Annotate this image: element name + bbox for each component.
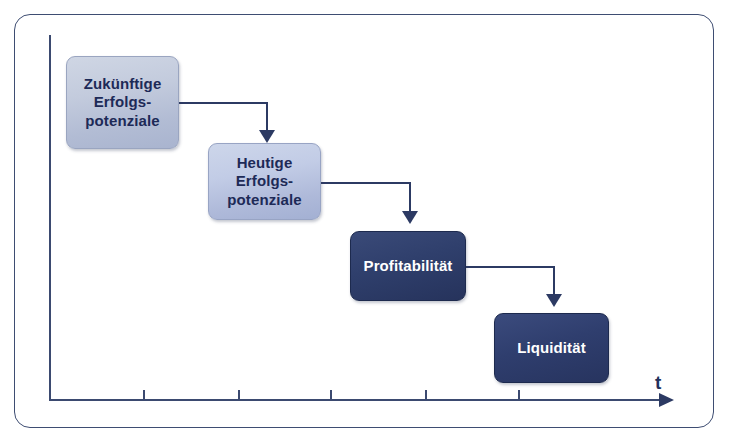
node-profit-label: Profitabilität: [358, 257, 459, 275]
connector-3-vertical: [553, 266, 555, 296]
axis-vertical: [49, 35, 51, 401]
node-liquidity-label: Liquidität: [511, 339, 592, 357]
node-heutige-label: Heutige Erfolgs- potenziale: [221, 154, 307, 209]
axis-arrow-right-icon: [659, 393, 674, 407]
axis-horizontal-time: [49, 399, 663, 401]
axis-tick-2: [238, 390, 240, 400]
node-heutige[interactable]: Heutige Erfolgs- potenziale: [208, 143, 321, 220]
axis-label-t: t: [655, 372, 662, 394]
connector-1-horizontal: [179, 102, 267, 104]
connector-1-vertical: [266, 102, 268, 132]
node-zukuenftige[interactable]: Zukünftige Erfolgs- potenziale: [66, 56, 179, 149]
connector-1-arrowhead-icon: [259, 130, 275, 143]
node-zukuenftige-label: Zukünftige Erfolgs- potenziale: [78, 75, 168, 130]
connector-3-arrowhead-icon: [546, 294, 562, 307]
axis-tick-3: [330, 390, 332, 400]
connector-3-horizontal: [466, 266, 554, 268]
axis-tick-4: [425, 390, 427, 400]
connector-2-arrowhead-icon: [402, 211, 418, 224]
connector-2-horizontal: [321, 182, 411, 184]
axis-tick-1: [143, 390, 145, 400]
node-profit[interactable]: Profitabilität: [350, 231, 466, 301]
diagram-canvas: t Zukünftige Erfolgs- potenzialeHeutige …: [0, 0, 732, 444]
node-liquidity[interactable]: Liquidität: [494, 313, 609, 383]
connector-2-vertical: [409, 182, 411, 213]
axis-tick-5: [518, 390, 520, 400]
